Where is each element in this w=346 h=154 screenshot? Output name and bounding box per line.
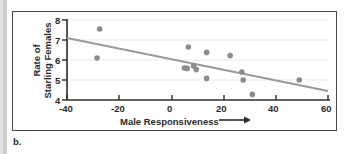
data-points [94,26,302,97]
trendline [67,38,328,91]
x-axis-title-arrow-icon [219,117,251,124]
data-point [204,50,210,56]
data-point [97,26,103,32]
data-point [227,53,233,59]
data-point [184,66,190,72]
data-point [240,77,246,83]
data-point [239,69,245,75]
data-point [186,44,192,50]
scatter-plot [0,0,346,154]
data-point [296,77,302,83]
data-point [193,67,199,73]
data-point [204,76,210,82]
data-point [94,55,100,61]
data-point [250,92,256,98]
figure-page: Rate of Starling Females 8 7 6 5 4 -40 -… [0,0,346,154]
